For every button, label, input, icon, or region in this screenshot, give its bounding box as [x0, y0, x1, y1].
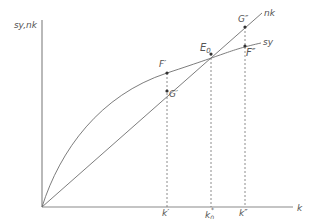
nk-line — [42, 13, 262, 207]
k2-tick-label: k″ — [239, 208, 248, 218]
y-axis-label: sy,nk — [14, 20, 38, 30]
f2-label: F″ — [246, 47, 256, 58]
g2-label: G″ — [238, 14, 249, 24]
nk-label: nk — [264, 8, 276, 18]
sy-label: sy — [263, 37, 274, 47]
k0-tick-label: k0* — [205, 206, 214, 219]
g1-label: G′ — [169, 89, 178, 99]
e0-label: E0 — [200, 42, 211, 55]
point-f1 — [165, 71, 168, 74]
k1-tick-label: k′ — [162, 208, 169, 218]
point-g2 — [243, 25, 246, 28]
x-axis-label: k — [297, 203, 303, 213]
solow-diagram: sy,nk k nk sy E0 F′ G′ G″ F″ k′ k0* k″ — [0, 0, 310, 219]
sy-curve — [42, 43, 261, 207]
f1-label: F′ — [159, 59, 166, 69]
